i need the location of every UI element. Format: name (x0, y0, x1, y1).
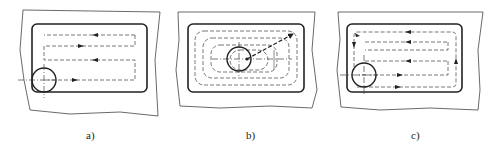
panel-a-label: a) (86, 129, 95, 141)
panel-b-label: b) (246, 129, 255, 141)
panel-b (176, 12, 317, 108)
milling-toolpath-diagram (0, 0, 485, 150)
panel-c (337, 12, 483, 110)
pocket-boundary (32, 24, 147, 92)
direction-arrows (352, 30, 458, 89)
workpiece-outline (20, 10, 160, 116)
zigzag-path (44, 35, 135, 80)
panel-a (18, 10, 160, 116)
zigzag-path (354, 32, 456, 87)
direction-arrows (72, 33, 98, 82)
panel-c-label: c) (411, 129, 420, 141)
